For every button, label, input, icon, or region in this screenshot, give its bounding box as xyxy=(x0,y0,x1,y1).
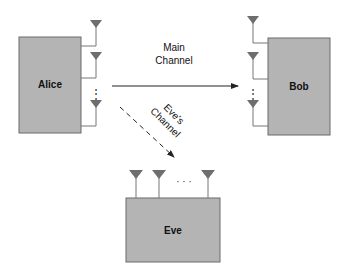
antenna-icon xyxy=(81,20,102,46)
bob-label: Bob xyxy=(289,81,308,92)
horizontal-ellipsis: · · · xyxy=(176,176,192,187)
antenna-icon xyxy=(81,100,102,126)
eve-label: Eve xyxy=(164,225,182,236)
wiretap-channel-diagram: Alice ⋮ Bob ⋮ xyxy=(0,0,346,276)
antenna-icon xyxy=(129,170,143,198)
main-channel-edge: Main Channel xyxy=(112,42,238,86)
main-channel-label-1: Main xyxy=(163,42,185,53)
vertical-ellipsis: ⋮ xyxy=(90,87,102,101)
eve-channel-edge: Eve's Channel xyxy=(120,97,191,157)
alice-label: Alice xyxy=(38,79,62,90)
vertical-ellipsis: ⋮ xyxy=(247,87,259,101)
antenna-icon xyxy=(81,52,102,78)
antenna-icon xyxy=(201,170,215,198)
antenna-icon xyxy=(247,52,268,79)
antenna-icon xyxy=(247,100,268,126)
antenna-icon xyxy=(152,170,166,198)
bob-node: Bob ⋮ xyxy=(247,16,330,135)
eve-node: Eve · · · xyxy=(126,170,220,262)
alice-node: Alice ⋮ xyxy=(19,20,102,133)
antenna-icon xyxy=(247,16,268,43)
main-channel-label-2: Channel xyxy=(155,55,192,66)
